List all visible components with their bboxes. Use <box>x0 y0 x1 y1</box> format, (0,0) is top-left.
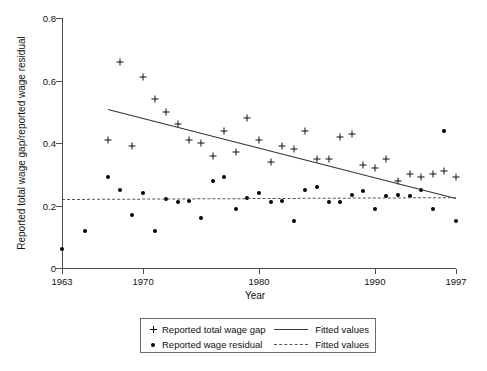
data-point-dot <box>211 179 215 183</box>
data-point-plus <box>198 140 205 147</box>
data-point-dot <box>292 219 296 223</box>
legend-fit-sample-2: Fitted values <box>274 339 369 350</box>
x-tick-mark <box>143 269 144 274</box>
data-point-plus <box>256 136 263 143</box>
data-point-dot <box>257 191 261 195</box>
data-point-plus <box>337 133 344 140</box>
y-tick-label: 0.6 <box>0 75 65 86</box>
data-point-plus <box>221 127 228 134</box>
legend-row: Reported total wage gap Fitted values <box>147 322 369 337</box>
legend-label-series-2: Reported wage residual <box>162 339 262 350</box>
dot-marker-icon <box>147 343 159 347</box>
x-tick-mark <box>456 269 457 274</box>
y-tick-label: 0.2 <box>0 200 65 211</box>
solid-line-icon <box>274 329 308 330</box>
data-point-dot <box>187 199 191 203</box>
data-point-plus <box>279 143 286 150</box>
chart-legend: Reported total wage gap Fitted values Re… <box>140 318 376 353</box>
data-point-plus <box>429 171 436 178</box>
dashed-line-icon <box>274 344 308 345</box>
data-point-plus <box>418 174 425 181</box>
data-point-dot <box>454 219 458 223</box>
data-point-dot <box>60 247 64 251</box>
data-point-plus <box>186 136 193 143</box>
data-point-dot <box>350 193 354 197</box>
x-tick-mark <box>375 269 376 274</box>
data-point-plus <box>209 152 216 159</box>
legend-fit-label-2: Fitted values <box>315 339 369 350</box>
x-axis-title: Year <box>245 290 265 301</box>
y-tick-label: 0.4 <box>0 138 65 149</box>
data-point-plus <box>140 74 147 81</box>
data-point-dot <box>222 175 226 179</box>
data-point-plus <box>267 158 274 165</box>
x-tick-mark <box>259 269 260 274</box>
data-point-dot <box>118 188 122 192</box>
legend-row: Reported wage residual Fitted values <box>147 337 369 352</box>
legend-fit-sample-1: Fitted values <box>274 324 369 335</box>
chart-figure: Reported total wage gap/reported wage re… <box>0 0 487 371</box>
y-tick-label: 0.8 <box>0 13 65 24</box>
data-point-dot <box>130 213 134 217</box>
data-point-dot <box>234 207 238 211</box>
data-point-dot <box>338 200 342 204</box>
x-tick-mark <box>62 269 63 274</box>
data-point-dot <box>106 175 110 179</box>
data-point-dot <box>373 207 377 211</box>
data-point-dot <box>361 189 365 193</box>
data-point-plus <box>325 155 332 162</box>
data-point-dot <box>141 191 145 195</box>
data-point-plus <box>163 108 170 115</box>
data-point-plus <box>302 127 309 134</box>
data-point-dot <box>303 188 307 192</box>
data-point-plus <box>406 171 413 178</box>
data-point-plus <box>244 115 251 122</box>
x-tick-label: 1963 <box>51 276 72 287</box>
y-tick-label: 0 <box>0 263 65 274</box>
data-point-plus <box>290 146 297 153</box>
data-point-plus <box>128 143 135 150</box>
data-point-plus <box>105 136 112 143</box>
data-point-plus <box>360 161 367 168</box>
data-point-dot <box>176 200 180 204</box>
data-point-plus <box>441 168 448 175</box>
legend-label-series-1: Reported total wage gap <box>162 324 266 335</box>
data-point-plus <box>371 165 378 172</box>
data-point-dot <box>315 185 319 189</box>
data-point-plus <box>383 155 390 162</box>
data-point-plus <box>116 58 123 65</box>
data-point-dot <box>199 216 203 220</box>
data-point-dot <box>153 229 157 233</box>
data-point-dot <box>280 199 284 203</box>
x-tick-label: 1970 <box>133 276 154 287</box>
data-point-dot <box>442 129 446 133</box>
data-point-dot <box>269 200 273 204</box>
data-point-plus <box>151 96 158 103</box>
x-tick-label: 1997 <box>445 276 466 287</box>
data-point-plus <box>232 149 239 156</box>
legend-fit-label-1: Fitted values <box>315 324 369 335</box>
data-point-plus <box>453 174 460 181</box>
x-tick-label: 1990 <box>364 276 385 287</box>
data-point-dot <box>327 200 331 204</box>
data-point-plus <box>348 130 355 137</box>
data-point-dot <box>396 193 400 197</box>
data-point-dot <box>83 229 87 233</box>
x-tick-label: 1980 <box>248 276 269 287</box>
data-point-dot <box>431 207 435 211</box>
plus-marker-icon <box>147 326 159 333</box>
